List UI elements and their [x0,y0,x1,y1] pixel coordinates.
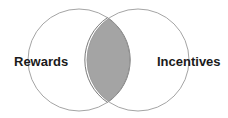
rewards-label: Rewards [14,54,68,69]
venn-diagram: Rewards Incentives [0,0,228,118]
incentives-label: Incentives [157,54,221,69]
